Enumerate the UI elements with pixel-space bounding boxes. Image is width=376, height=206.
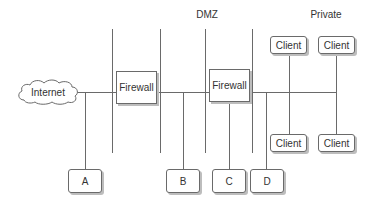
client-top-left: Client	[270, 36, 307, 54]
zone-boundary-line	[252, 29, 253, 153]
client-bottom-right: Client	[318, 134, 355, 152]
firewall-1-label: Firewall	[119, 82, 153, 93]
host-b-label: B	[180, 176, 187, 187]
client-label: Client	[324, 138, 350, 149]
link-client-column-2	[336, 54, 337, 134]
client-top-right: Client	[318, 36, 355, 54]
host-a-label: A	[82, 176, 89, 187]
zone-boundary-line	[205, 29, 206, 153]
link-a	[85, 92, 86, 169]
link-client-column-1	[289, 54, 290, 134]
host-d: D	[250, 169, 284, 193]
firewall-2-label: Firewall	[212, 80, 246, 91]
client-label: Client	[276, 138, 302, 149]
zone-boundary-line	[112, 29, 113, 153]
host-b: B	[166, 169, 200, 193]
client-label: Client	[324, 40, 350, 51]
client-bottom-left: Client	[270, 134, 307, 152]
firewall-2: Firewall	[209, 69, 250, 102]
host-d-label: D	[263, 176, 270, 187]
client-label: Client	[276, 40, 302, 51]
link-d	[266, 92, 267, 169]
host-a: A	[68, 169, 102, 193]
private-backbone-line	[250, 92, 337, 93]
zone-label-private: Private	[310, 9, 341, 20]
link-c	[229, 102, 230, 169]
zone-label-dmz: DMZ	[196, 9, 218, 20]
zone-boundary-line	[160, 29, 161, 153]
link-internet-firewall1	[77, 92, 117, 93]
internet-cloud: Internet	[16, 78, 80, 106]
firewall-1: Firewall	[116, 71, 157, 104]
host-c-label: C	[225, 176, 232, 187]
internet-label: Internet	[16, 78, 80, 106]
link-b	[183, 92, 184, 169]
host-c: C	[212, 169, 246, 193]
